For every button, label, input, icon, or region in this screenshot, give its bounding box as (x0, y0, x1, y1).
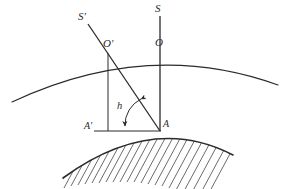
atmosphere-arc (12, 65, 278, 102)
label-A-prime: A' (84, 121, 92, 131)
refraction-diagram: S' S O' O h A' A (0, 0, 288, 189)
label-O: O (155, 37, 163, 48)
earth-hatching (34, 130, 231, 189)
label-A: A (163, 119, 169, 129)
earth-surface-arc (63, 139, 233, 178)
diagram-canvas (0, 0, 288, 189)
label-O-prime: O' (103, 38, 113, 49)
line-Sprime-to-A (88, 24, 160, 131)
label-S: S (155, 3, 161, 14)
label-h: h (117, 101, 122, 112)
angle-arc-h (125, 99, 141, 126)
label-S-prime: S' (78, 11, 86, 22)
